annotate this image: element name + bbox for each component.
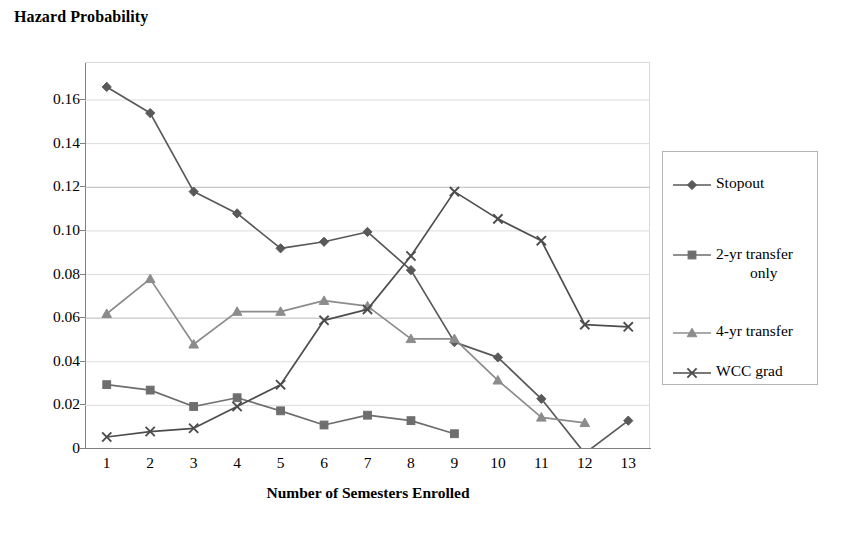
legend-item-2-yr-transfer-only: 2-yr transferonly	[671, 244, 817, 282]
data-point-marker	[277, 407, 285, 415]
y-axis-tick-label: 0.12	[18, 178, 80, 194]
y-axis-tick-labels: 00.020.040.060.080.100.120.140.16	[10, 0, 80, 533]
x-axis-tick-label: 4	[217, 455, 257, 471]
y-axis-tick-mark	[80, 143, 86, 144]
series-4-yr-transfer	[102, 274, 590, 427]
data-point-marker	[189, 187, 198, 196]
legend-triangle-icon	[671, 324, 713, 342]
legend-item-label: WCC grad	[713, 362, 783, 380]
y-axis-tick-label: 0.10	[18, 222, 80, 238]
data-point-marker	[233, 402, 242, 411]
data-point-marker	[450, 187, 459, 196]
y-axis-tick-mark	[80, 230, 86, 231]
data-point-marker	[146, 108, 155, 117]
x-axis-title: Number of Semesters Enrolled	[85, 484, 651, 502]
x-axis-tick-label: 13	[608, 455, 648, 471]
data-point-marker	[688, 251, 696, 259]
x-axis-tick-label: 5	[261, 455, 301, 471]
data-point-marker	[103, 381, 111, 389]
data-point-marker	[319, 237, 328, 246]
series-line	[107, 87, 629, 449]
y-axis-tick-label: 0.14	[18, 135, 80, 151]
y-axis-tick-label: 0	[18, 440, 80, 456]
x-axis-tick-label: 12	[565, 455, 605, 471]
chart-page: Hazard Probability 00.020.040.060.080.10…	[0, 0, 847, 533]
data-point-marker	[146, 386, 154, 394]
series-2-yr-transfer-only	[103, 381, 458, 438]
x-axis-tick-label: 6	[304, 455, 344, 471]
data-point-marker	[319, 296, 329, 305]
x-axis-tick-label: 7	[348, 455, 388, 471]
data-point-marker	[451, 430, 459, 438]
x-axis-tick-label: 10	[478, 455, 518, 471]
legend-square-icon	[671, 246, 713, 264]
x-axis-tick-label: 8	[391, 455, 431, 471]
y-axis-tick-mark	[80, 361, 86, 362]
y-axis-tick-label: 0.02	[18, 396, 80, 412]
y-axis-tick-mark	[80, 274, 86, 275]
data-point-marker	[537, 236, 546, 245]
data-point-marker	[406, 251, 415, 260]
y-axis-tick-label: 0.08	[18, 266, 80, 282]
y-axis-tick-label: 0.16	[18, 91, 80, 107]
data-point-marker	[687, 180, 696, 189]
y-axis-tick-label: 0.04	[18, 353, 80, 369]
y-axis-tick-label: 0.06	[18, 309, 80, 325]
x-axis-tick-label: 9	[434, 455, 474, 471]
legend-item-label-line2: only	[716, 263, 793, 282]
data-point-marker	[320, 421, 328, 429]
data-point-marker	[407, 417, 415, 425]
data-point-marker	[233, 394, 241, 402]
y-axis-tick-mark	[80, 99, 86, 100]
y-axis-tick-mark	[80, 448, 86, 449]
y-axis-tick-mark	[80, 404, 86, 405]
plot-area	[85, 62, 650, 448]
chart-legend: Stopout2-yr transferonly4-yr transferWCC…	[662, 151, 818, 385]
legend-item-label: 4-yr transfer	[713, 322, 793, 340]
x-axis-tick-label: 11	[521, 455, 561, 471]
data-point-marker	[102, 82, 111, 91]
legend-cross-icon	[671, 364, 713, 382]
x-axis-tick-label: 2	[130, 455, 170, 471]
series-stopout	[102, 82, 633, 449]
plot-svg	[85, 63, 650, 449]
x-axis-line	[85, 448, 651, 449]
data-point-marker	[190, 403, 198, 411]
legend-item-stopout: Stopout	[671, 174, 817, 194]
legend-item-4-yr-transfer: 4-yr transfer	[671, 322, 817, 342]
data-point-marker	[364, 411, 372, 419]
legend-item-label: Stopout	[713, 174, 764, 192]
data-point-marker	[493, 214, 502, 223]
data-point-marker	[145, 274, 155, 283]
data-point-marker	[276, 380, 285, 389]
x-axis-tick-label: 1	[87, 455, 127, 471]
y-axis-tick-mark	[80, 186, 86, 187]
series-wcc-grad	[102, 187, 633, 442]
legend-diamond-icon	[671, 176, 713, 194]
y-axis-tick-mark	[80, 317, 86, 318]
legend-item-label: 2-yr transferonly	[713, 244, 793, 282]
legend-item-wcc-grad: WCC grad	[671, 362, 817, 382]
x-axis-tick-label: 3	[174, 455, 214, 471]
x-axis-tick-labels: 12345678910111213	[85, 455, 651, 479]
